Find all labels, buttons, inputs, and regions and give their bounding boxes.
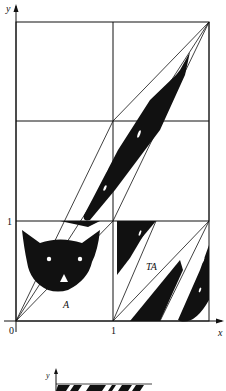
x-axis-arrow-icon (216, 319, 224, 324)
x-axis-label: x (217, 327, 223, 338)
y-axis-label: y (5, 3, 11, 14)
region-ta-label: TA (146, 261, 158, 272)
cat-eye-left (47, 257, 51, 261)
y-axis-arrow-icon-2 (54, 368, 58, 374)
y-tick-label: 1 (7, 216, 12, 227)
origin-label: 0 (9, 325, 14, 336)
region-a-label: A (62, 299, 70, 310)
x-tick-label: 1 (111, 325, 116, 336)
cat-eye-right (78, 257, 82, 261)
cat-face (22, 230, 100, 292)
y-axis-arrow-icon (14, 4, 19, 12)
second-figure: y (45, 368, 152, 391)
stretched-cat-shapes (60, 52, 209, 322)
cat-map-diagram: y x 0 1 1 A TA y (0, 0, 226, 391)
second-y-label: y (45, 371, 50, 380)
